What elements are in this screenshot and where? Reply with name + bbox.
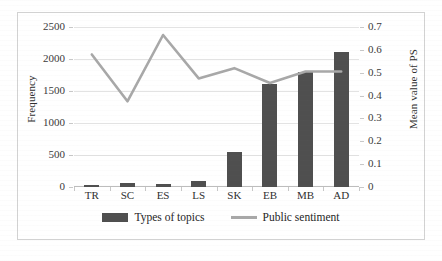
- legend-label-types-of-topics: Types of topics: [134, 211, 204, 223]
- y-axis-left-tick: [69, 59, 73, 60]
- x-axis-label-ad: AD: [333, 189, 349, 201]
- y-axis-right-tick: [360, 164, 364, 165]
- y-axis-right-tick: [360, 50, 364, 51]
- y-axis-right-label: 0.1: [368, 158, 382, 169]
- y-axis-right-tick: [360, 27, 364, 28]
- x-axis-label-tr: TR: [85, 189, 99, 201]
- x-axis-label-sk: SK: [227, 189, 241, 201]
- chart-frame: Frequency Mean value of PS 0500100015002…: [17, 12, 425, 240]
- y-axis-right-tick: [360, 73, 364, 74]
- y-axis-right-title: Mean value of PS: [407, 34, 419, 144]
- chart-screenshot: Frequency Mean value of PS 0500100015002…: [0, 0, 442, 261]
- y-axis-left-tick: [69, 187, 73, 188]
- y-axis-right-label: 0.3: [368, 112, 382, 123]
- y-axis-left-label: 1500: [43, 85, 65, 96]
- y-axis-right-label: 0.6: [368, 44, 382, 55]
- line-swatch-icon: [231, 216, 257, 219]
- y-axis-left-tick: [69, 91, 73, 92]
- y-axis-right-label: 0.4: [368, 90, 382, 101]
- y-axis-right-label: 0.5: [368, 67, 382, 78]
- x-axis-label-es: ES: [157, 189, 170, 201]
- plot-area: 0500100015002000250000.10.20.30.40.50.60…: [74, 27, 359, 187]
- x-axis-tick: [359, 187, 360, 191]
- line-series-public-sentiment: [74, 27, 359, 187]
- bar-swatch-icon: [102, 213, 128, 222]
- y-axis-left-tick: [69, 27, 73, 28]
- y-axis-right-tick: [360, 141, 364, 142]
- y-axis-right-tick: [360, 187, 364, 188]
- y-axis-left-label: 2000: [43, 53, 65, 64]
- y-axis-left-label: 500: [49, 149, 66, 160]
- x-axis-tick-labels: TRSCESLSSKEBMBAD: [74, 189, 359, 205]
- y-axis-left-title: Frequency: [25, 49, 37, 149]
- x-axis-label-eb: EB: [263, 189, 277, 201]
- y-axis-right-label: 0: [368, 181, 374, 192]
- y-axis-left-label: 0: [60, 181, 66, 192]
- legend-item-types-of-topics: Types of topics: [102, 211, 204, 223]
- x-axis-label-ls: LS: [192, 189, 205, 201]
- y-axis-right-tick: [360, 96, 364, 97]
- y-axis-right-label: 0.2: [368, 135, 382, 146]
- y-axis-left-tick: [69, 123, 73, 124]
- y-axis-left-label: 2500: [43, 21, 65, 32]
- y-axis-right-tick: [360, 118, 364, 119]
- y-axis-left-tick: [69, 155, 73, 156]
- legend-label-public-sentiment: Public sentiment: [263, 211, 340, 223]
- y-axis-right-label: 0.7: [368, 21, 382, 32]
- legend-item-public-sentiment: Public sentiment: [231, 211, 340, 223]
- x-axis-label-sc: SC: [121, 189, 134, 201]
- y-axis-left-label: 1000: [43, 117, 65, 128]
- x-axis-label-mb: MB: [297, 189, 314, 201]
- chart-legend: Types of topics Public sentiment: [18, 211, 424, 223]
